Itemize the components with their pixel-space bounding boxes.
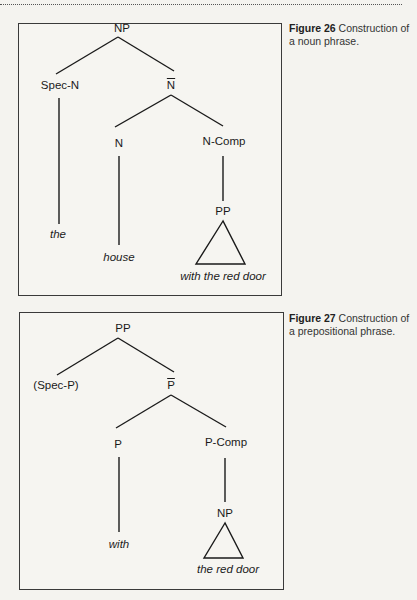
node-n-bar: N xyxy=(167,79,175,92)
node-pp: PP xyxy=(215,205,230,218)
node-spec-p: (Spec-P) xyxy=(33,379,78,392)
node-p-head: P xyxy=(114,438,122,451)
node-pp-root: PP xyxy=(115,322,130,335)
leaf-house: house xyxy=(103,251,134,264)
node-spec-n: Spec-N xyxy=(41,79,79,92)
figure-26-caption: Figure 26 Construction of a noun phrase. xyxy=(289,22,414,48)
caption-number: Figure 26 xyxy=(289,22,336,34)
leaf-the-red-door: the red door xyxy=(197,563,259,576)
node-p-comp: P-Comp xyxy=(205,436,247,449)
dotted-separator xyxy=(0,4,402,5)
node-p-bar: P xyxy=(167,379,175,392)
node-n-head: N xyxy=(115,137,123,150)
node-n-comp: N-Comp xyxy=(203,135,246,148)
leaf-with-the-red-door: with the red door xyxy=(180,270,266,283)
figure-27-diagram: PP (Spec-P) P P P-Comp NP with the red d… xyxy=(19,312,284,590)
node-np-root: NP xyxy=(114,22,130,35)
caption-number: Figure 27 xyxy=(289,312,336,324)
node-np: NP xyxy=(217,507,233,520)
leaf-with: with xyxy=(109,538,129,551)
leaf-the: the xyxy=(50,228,66,241)
figure-26-diagram: NP Spec-N N N N-Comp the PP house with t… xyxy=(18,23,282,296)
tree-edges xyxy=(19,24,283,297)
tree-edges xyxy=(20,313,285,591)
figure-27-caption: Figure 27 Construction of a prepositiona… xyxy=(289,312,414,338)
